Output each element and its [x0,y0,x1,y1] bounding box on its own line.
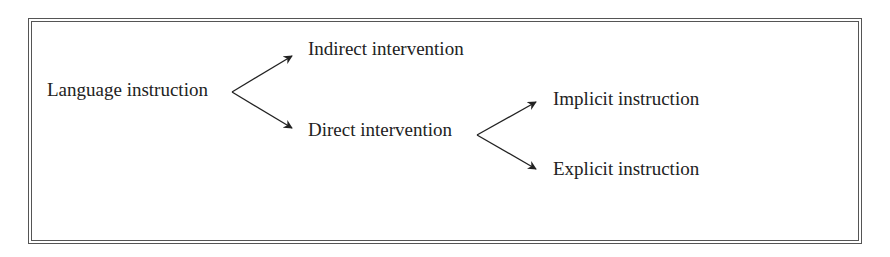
node-explicit-instruction: Explicit instruction [553,158,699,180]
node-indirect-intervention: Indirect intervention [308,38,464,60]
node-direct-intervention: Direct intervention [308,119,452,141]
node-implicit-instruction: Implicit instruction [553,88,699,110]
node-language-instruction: Language instruction [47,79,208,101]
